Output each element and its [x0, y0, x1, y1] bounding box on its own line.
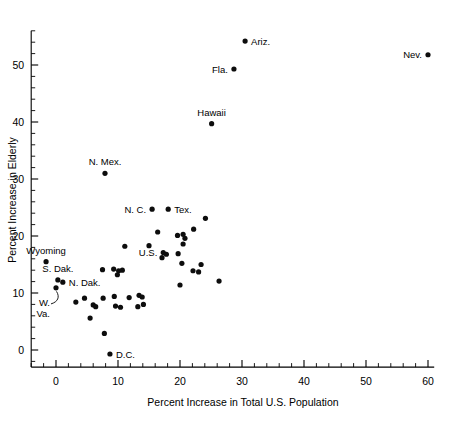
- data-point-labeled: [53, 285, 58, 290]
- point-label-tex: Tex.: [174, 204, 191, 215]
- point-label-hawaii: Hawaii: [197, 107, 226, 118]
- data-point-labeled: [243, 38, 248, 43]
- data-point: [175, 233, 180, 238]
- data-point: [159, 255, 164, 260]
- data-point: [111, 266, 116, 271]
- data-point: [203, 216, 208, 221]
- data-point: [127, 295, 132, 300]
- x-axis-title: Percent Increase in Total U.S. Populatio…: [147, 396, 338, 408]
- point-label-n-mex: N. Mex.: [89, 156, 122, 167]
- y-axis-tick-label: 10: [13, 287, 25, 299]
- point-label-wva-line1: W.: [39, 297, 50, 308]
- x-axis-tick-label: 0: [53, 375, 59, 387]
- x-axis-tick-label: 60: [422, 375, 434, 387]
- data-point: [102, 331, 107, 336]
- point-label-wyoming: Wyoming: [26, 245, 66, 256]
- data-point: [115, 272, 120, 277]
- data-point: [190, 268, 195, 273]
- point-label-n-c: N. C.: [124, 204, 146, 215]
- data-point-labeled: [107, 351, 112, 356]
- data-point-labeled: [231, 66, 236, 71]
- data-point: [112, 294, 117, 299]
- data-point: [191, 227, 196, 232]
- data-point: [118, 305, 123, 310]
- callout-leader-line: [51, 291, 58, 304]
- data-point: [198, 262, 203, 267]
- data-point: [122, 244, 127, 249]
- data-point: [179, 261, 184, 266]
- data-point: [100, 267, 105, 272]
- data-point: [164, 252, 169, 257]
- x-axis-tick-label: 20: [174, 375, 186, 387]
- point-label-wva-line2: Va.: [36, 308, 50, 319]
- point-label-nev: Nev.: [403, 49, 422, 60]
- y-axis-tick-label: 0: [18, 344, 24, 356]
- data-point: [135, 304, 140, 309]
- x-axis-tick-label: 30: [236, 375, 248, 387]
- y-axis-tick-label: 40: [13, 116, 25, 128]
- data-point-labeled: [209, 121, 214, 126]
- point-label-fla: Fla.: [212, 64, 228, 75]
- point-label-u-s: U.S.: [139, 247, 157, 258]
- x-axis-tick-label: 40: [298, 375, 310, 387]
- data-point: [88, 315, 93, 320]
- x-axis-tick-label: 10: [112, 375, 124, 387]
- data-point: [101, 296, 106, 301]
- data-point-labeled: [425, 52, 430, 57]
- data-point: [196, 269, 201, 274]
- data-point: [176, 251, 181, 256]
- y-axis-tick-label: 50: [13, 59, 25, 71]
- data-point-labeled: [60, 280, 65, 285]
- point-label-n-dak: N. Dak.: [69, 277, 101, 288]
- data-point: [82, 296, 87, 301]
- data-point-labeled: [150, 207, 155, 212]
- data-point: [216, 278, 221, 283]
- data-point: [177, 282, 182, 287]
- data-point-labeled: [166, 207, 171, 212]
- data-point: [181, 241, 186, 246]
- chart-canvas: 010203040506001020304050 Ariz.Nev.Fla.Ha…: [0, 0, 466, 422]
- data-points-group: [43, 38, 430, 356]
- data-point: [182, 236, 187, 241]
- data-point: [120, 268, 125, 273]
- data-point: [155, 229, 160, 234]
- point-labels-group: Ariz.Nev.Fla.HawaiiN. Mex.N. C.Tex.U.S.W…: [26, 36, 422, 360]
- scatter-chart-figure: 010203040506001020304050 Ariz.Nev.Fla.Ha…: [0, 0, 466, 422]
- data-point-labeled: [55, 277, 60, 282]
- data-point: [140, 294, 145, 299]
- point-label-d-c: D.C.: [116, 349, 135, 360]
- data-point: [93, 304, 98, 309]
- y-axis-title: Percent Increase in Elderly: [6, 137, 18, 263]
- data-point: [73, 300, 78, 305]
- data-point: [113, 304, 118, 309]
- x-axis-tick-label: 50: [360, 375, 372, 387]
- data-point-labeled: [102, 171, 107, 176]
- point-label-s-dak: S. Dak.: [42, 263, 73, 274]
- data-point: [141, 302, 146, 307]
- point-label-ariz: Ariz.: [251, 36, 270, 47]
